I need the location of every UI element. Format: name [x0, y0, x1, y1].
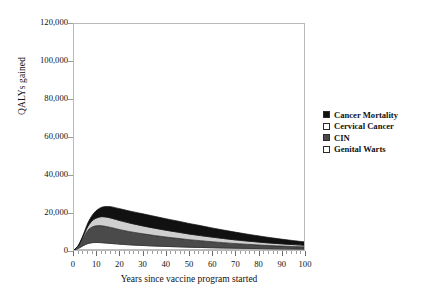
x-axis-minor-tick [138, 251, 139, 254]
x-axis-minor-tick [203, 251, 204, 254]
legend-item-label: Genital Warts [334, 144, 386, 154]
x-axis-minor-tick [221, 251, 222, 254]
x-axis-major-tick [282, 251, 283, 256]
y-axis-tick-label: 20,000 [22, 208, 68, 217]
x-axis-minor-tick [249, 251, 250, 254]
x-axis-minor-tick [208, 251, 209, 254]
x-axis-minor-tick [231, 251, 232, 254]
x-axis-major-tick [143, 251, 144, 256]
chart-legend: Cancer MortalityCervical CancerCINGenita… [320, 106, 402, 158]
y-axis-tick-mark [68, 251, 73, 252]
x-axis-major-tick [96, 251, 97, 256]
x-axis-minor-tick [198, 251, 199, 254]
x-axis-minor-tick [157, 251, 158, 254]
x-axis-minor-tick [180, 251, 181, 254]
legend-item-label: Cancer Mortality [334, 110, 398, 120]
x-axis-title: Years since vaccine program started [73, 274, 305, 284]
x-axis-minor-tick [124, 251, 125, 254]
x-axis-major-tick [73, 251, 74, 256]
y-axis-tick-mark [68, 61, 73, 62]
y-axis-tick-mark [68, 99, 73, 100]
x-axis-minor-tick [101, 251, 102, 254]
x-axis-minor-tick [286, 251, 287, 254]
x-axis-minor-tick [175, 251, 176, 254]
y-axis-tick-label: 100,000 [22, 56, 68, 65]
x-axis-major-tick [166, 251, 167, 256]
x-axis-major-tick [189, 251, 190, 256]
x-axis-minor-tick [263, 251, 264, 254]
legend-item-label: CIN [334, 133, 350, 143]
x-axis-minor-tick [268, 251, 269, 254]
qalys-gained-chart: QALYs gained 020,00040,00060,00080,00010… [0, 0, 432, 305]
x-axis-minor-tick [296, 251, 297, 254]
x-axis-minor-tick [240, 251, 241, 254]
y-axis-tick-mark [68, 175, 73, 176]
legend-swatch-icon [323, 123, 330, 130]
x-axis-major-tick [259, 251, 260, 256]
x-axis-minor-tick [291, 251, 292, 254]
legend-item: Cancer Mortality [323, 109, 398, 121]
x-axis-tick-label: 100 [290, 259, 320, 270]
x-axis-minor-tick [82, 251, 83, 254]
y-axis-tick-label: 60,000 [22, 132, 68, 141]
x-axis-ticks [73, 251, 305, 258]
plot-area [73, 23, 305, 251]
legend-swatch-icon [323, 134, 330, 141]
x-axis-minor-tick [129, 251, 130, 254]
x-axis-minor-tick [78, 251, 79, 254]
legend-swatch-icon [323, 111, 330, 118]
legend-swatch-icon [323, 146, 330, 153]
x-axis-tick-labels: 0102030405060708090100 [73, 259, 305, 271]
y-axis-tick-label: 0 [22, 246, 68, 255]
x-axis-minor-tick [194, 251, 195, 254]
y-axis-tick-mark [68, 23, 73, 24]
x-axis-minor-tick [147, 251, 148, 254]
x-axis-minor-tick [300, 251, 301, 254]
x-axis-minor-tick [217, 251, 218, 254]
x-axis-major-tick [235, 251, 236, 256]
stacked-area-series [74, 24, 304, 250]
x-axis-minor-tick [133, 251, 134, 254]
y-axis-tick-label: 120,000 [22, 18, 68, 27]
x-axis-minor-tick [226, 251, 227, 254]
x-axis-minor-tick [254, 251, 255, 254]
x-axis-minor-tick [115, 251, 116, 254]
x-axis-minor-tick [170, 251, 171, 254]
y-axis-tick-label: 80,000 [22, 94, 68, 103]
x-axis-major-tick [305, 251, 306, 256]
x-axis-minor-tick [87, 251, 88, 254]
x-axis-major-tick [212, 251, 213, 256]
x-axis-minor-tick [184, 251, 185, 254]
x-axis-minor-tick [273, 251, 274, 254]
x-axis-major-tick [119, 251, 120, 256]
legend-item-label: Cervical Cancer [334, 121, 394, 131]
x-axis-minor-tick [161, 251, 162, 254]
x-axis-minor-tick [105, 251, 106, 254]
y-axis-tick-label: 40,000 [22, 170, 68, 179]
y-axis-tick-mark [68, 213, 73, 214]
x-axis-minor-tick [245, 251, 246, 254]
x-axis-minor-tick [110, 251, 111, 254]
x-axis-minor-tick [277, 251, 278, 254]
legend-item: CIN [323, 132, 398, 144]
legend-item: Cervical Cancer [323, 121, 398, 133]
legend-item: Genital Warts [323, 144, 398, 156]
x-axis-minor-tick [152, 251, 153, 254]
y-axis-tick-mark [68, 137, 73, 138]
x-axis-minor-tick [92, 251, 93, 254]
